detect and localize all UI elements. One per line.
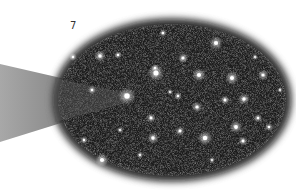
star: [151, 136, 155, 140]
star: [195, 105, 198, 108]
star: [257, 117, 260, 120]
star: [203, 136, 207, 140]
star: [254, 56, 256, 58]
star: [177, 95, 179, 97]
star-field-oval: [51, 17, 293, 183]
star: [242, 97, 246, 101]
star: [150, 117, 153, 120]
star: [197, 73, 201, 77]
star: [139, 154, 141, 156]
star: [242, 140, 245, 143]
star: [72, 56, 74, 58]
star: [169, 91, 171, 93]
star: [98, 54, 102, 58]
star: [261, 73, 264, 76]
figure-number-label: 7: [70, 21, 76, 31]
star: [268, 126, 271, 129]
star: [117, 54, 119, 56]
star: [211, 159, 213, 161]
star: [83, 139, 85, 141]
star: [179, 130, 182, 133]
star: [230, 76, 234, 80]
star: [100, 158, 104, 162]
star: [124, 93, 129, 98]
star: [162, 32, 164, 34]
star: [181, 56, 184, 59]
star: [91, 89, 94, 92]
star: [154, 67, 156, 69]
star: [224, 99, 227, 102]
star-field-illustration: [0, 0, 296, 196]
star: [234, 125, 238, 129]
star: [214, 41, 218, 45]
star: [279, 89, 281, 91]
star: [119, 129, 121, 131]
